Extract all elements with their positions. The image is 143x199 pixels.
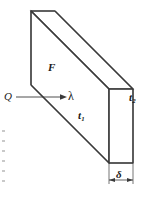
- scan-artifact: [2, 140, 5, 142]
- label-temperature-t2: t2: [129, 92, 135, 103]
- scan-artifact: [2, 180, 5, 182]
- scan-artifact: [2, 130, 5, 132]
- label-temperature-t1: t1: [78, 110, 84, 121]
- scan-artifact: [2, 170, 5, 172]
- label-thickness-delta: δ: [116, 169, 122, 180]
- label-area-F: F: [48, 62, 55, 73]
- label-t2-subscript: 2: [132, 97, 135, 104]
- scan-artifact: [2, 160, 5, 162]
- scan-artifact: [2, 150, 5, 152]
- label-heat-flow-Q: Q: [4, 91, 12, 102]
- dimension-arrowhead-right-icon: [127, 178, 133, 182]
- label-thermal-conductivity-lambda: λ: [68, 90, 74, 102]
- label-t1-subscript: 1: [81, 115, 84, 122]
- figure-container: Q λ F t1 t2 δ: [0, 0, 143, 199]
- dimension-arrowhead-left-icon: [109, 178, 115, 182]
